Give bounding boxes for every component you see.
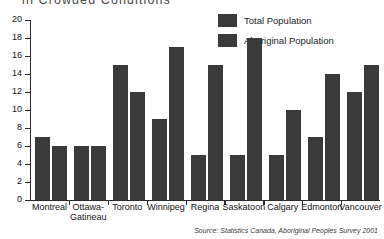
x-axis-category-labels: MontrealOttawa-GatineauTorontoWinnipegRe… (30, 203, 380, 229)
bar (247, 38, 262, 200)
y-axis-tick-label: 8 (17, 122, 22, 132)
y-axis-tick: 14 (25, 74, 30, 75)
bar (169, 47, 184, 200)
y-axis-tick: 8 (25, 128, 30, 129)
bar (325, 74, 340, 200)
bar (286, 110, 301, 200)
bar-group (152, 20, 184, 200)
y-axis-tick-label: 2 (17, 176, 22, 186)
y-axis-tick-label: 10 (12, 104, 22, 114)
bar (52, 146, 67, 200)
y-axis-tick-label: 16 (12, 50, 22, 60)
bar (269, 155, 284, 200)
bar-group (269, 20, 301, 200)
bar-group (191, 20, 223, 200)
bar (152, 119, 167, 200)
source-note: Source: Statistics Canada, Aboriginal Pe… (194, 227, 378, 234)
bar-chart: in Crowded Conditions Total Population A… (0, 0, 384, 239)
bar (230, 155, 245, 200)
plot-area: 02468101214161820 (30, 20, 380, 200)
bar (74, 146, 89, 200)
bar-group (230, 20, 262, 200)
y-axis-line (30, 20, 31, 201)
y-axis-tick: 20 (25, 20, 30, 21)
y-axis-tick: 2 (25, 182, 30, 183)
y-axis-tick: 0 (25, 200, 30, 201)
y-axis-tick-label: 18 (12, 32, 22, 42)
bar-group (74, 20, 106, 200)
bar (347, 92, 362, 200)
bar (308, 137, 323, 200)
y-axis-tick: 12 (25, 92, 30, 93)
bar (113, 65, 128, 200)
bar (364, 65, 379, 200)
bar-group (113, 20, 145, 200)
bar (91, 146, 106, 200)
bar (208, 65, 223, 200)
bar (35, 137, 50, 200)
y-axis-tick: 10 (25, 110, 30, 111)
bar-group (308, 20, 340, 200)
bar-group (347, 20, 379, 200)
x-axis-category-label: Vancouver (335, 203, 384, 213)
bar (130, 92, 145, 200)
y-axis-tick-label: 0 (17, 194, 22, 204)
bar (191, 155, 206, 200)
y-axis-tick-label: 12 (12, 86, 22, 96)
y-axis-tick-label: 4 (17, 158, 22, 168)
y-axis-tick-label: 20 (12, 14, 22, 24)
y-axis-tick-label: 14 (12, 68, 22, 78)
y-axis-tick: 18 (25, 38, 30, 39)
chart-title: in Crowded Conditions (22, 0, 171, 5)
y-axis-tick-label: 6 (17, 140, 22, 150)
y-axis-tick: 16 (25, 56, 30, 57)
y-axis-tick: 6 (25, 146, 30, 147)
y-axis-tick: 4 (25, 164, 30, 165)
bar-group (35, 20, 67, 200)
